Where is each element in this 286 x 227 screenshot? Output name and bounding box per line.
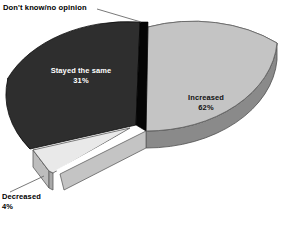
slice-top-increased-lower	[146, 21, 277, 131]
slice-label-increased-percent: 62%	[166, 103, 246, 113]
slice-label-increased: Increased 62%	[166, 93, 246, 112]
slice-label-increased-name: Increased	[188, 93, 224, 102]
slice-label-dont-know-name: Don't know/no opinion	[3, 3, 87, 12]
slice-label-stayed-the-same-name: Stayed the same	[51, 66, 112, 75]
pie-chart: Increased 62% Stayed the same 31% Decrea…	[0, 0, 286, 227]
slice-label-decreased: Decreased 4%	[2, 192, 68, 211]
slice-label-decreased-name: Decreased	[2, 192, 41, 201]
slice-label-stayed-the-same: Stayed the same 31%	[33, 66, 129, 85]
slice-label-stayed-the-same-percent: 31%	[33, 76, 129, 86]
slice-label-dont-know: Don't know/no opinion	[3, 3, 133, 13]
leader-line-decreased	[10, 176, 44, 192]
slice-label-decreased-percent: 4%	[2, 202, 68, 212]
slice-side-decreased-outer	[49, 171, 53, 190]
